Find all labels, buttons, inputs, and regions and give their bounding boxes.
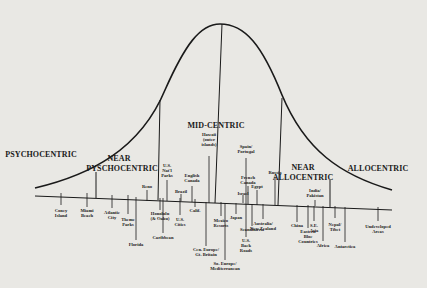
destination-label: Caribbean [153, 236, 174, 241]
destination-label: So. Europe/ Mediterranean [210, 262, 240, 272]
destination-label: Brazil [175, 190, 187, 195]
destination-label: English Canada [184, 174, 199, 184]
segment-label-midcentric: MID-CENTRIC [187, 122, 244, 130]
destination-label: Miami Beach [80, 209, 93, 219]
segment-label-near-allocentric-1: NEAR [291, 164, 314, 172]
destination-label: Theme Parks [121, 218, 135, 228]
destination-label: S.E. Asia [310, 224, 319, 234]
segment-label-near-psychocentric-1: NEAR [107, 155, 130, 163]
destination-label: Mexico Resorts [214, 219, 229, 229]
destination-label: Israel [237, 192, 248, 197]
segment-label-near-psychocentric-2: PYSCHOCENTRIC [86, 165, 158, 173]
destination-label: Reno [142, 185, 152, 190]
destination-label: Honolulu (& Oahu) [150, 212, 169, 222]
destination-label: Antarctica [335, 245, 356, 250]
destination-label: Egypt [251, 185, 263, 190]
destination-label: India/ Pakistan [306, 189, 323, 199]
segment-label-allocentric: ALLOCENTRIC [348, 165, 409, 173]
destination-label: Russia [268, 171, 281, 176]
destination-label: Nepal/ Tibet [329, 223, 342, 233]
destination-label: Cen. Europe/ Gt. Britain [193, 248, 219, 258]
destination-label: Spain/ Portugal [237, 145, 254, 155]
destination-label: Calif. [190, 209, 201, 214]
destination-label: Atlantic City [104, 211, 120, 221]
destination-label: U.S. Back Roads [240, 239, 252, 253]
destination-label: Hawaii (outer islands) [201, 133, 216, 147]
destination-label: U.S. Nat'l Parks [161, 164, 172, 178]
destination-label: Japan [230, 216, 242, 221]
destination-label: Florida [129, 243, 144, 248]
segment-label-psychocentric: PSYCHOCENTRIC [5, 151, 77, 159]
destination-label: U.S. Cities [174, 218, 185, 228]
destination-label: Africa [317, 244, 330, 249]
destination-label: Coney Island [55, 209, 68, 219]
destination-label: Undeveloped Areas [365, 225, 391, 235]
destination-label: Australia/ New Zealand [250, 222, 276, 232]
segment-label-near-allocentric-2: ALLOCENTRIC [273, 174, 334, 182]
